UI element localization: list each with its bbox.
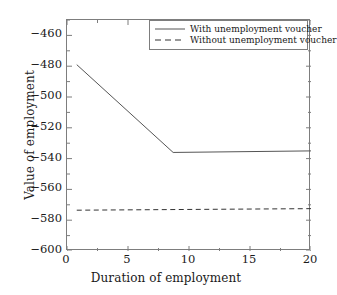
x-tick-label: 0 bbox=[62, 253, 69, 265]
legend-item-with-voucher: With unemployment voucher bbox=[153, 24, 304, 34]
data-series bbox=[77, 65, 311, 211]
x-tick-label: 10 bbox=[181, 253, 196, 265]
chart-legend: With unemployment voucher Without unempl… bbox=[149, 20, 308, 50]
plot-canvas bbox=[67, 20, 311, 251]
legend-dashed-line-icon bbox=[155, 36, 185, 44]
series-line-0 bbox=[77, 65, 311, 153]
axis-ticks bbox=[67, 20, 311, 251]
plot-area: With unemployment voucher Without unempl… bbox=[66, 19, 310, 250]
x-tick-label: 5 bbox=[123, 253, 130, 265]
y-axis-title: Value of employment bbox=[23, 35, 37, 235]
legend-label-without-voucher: Without unemployment voucher bbox=[190, 36, 337, 45]
series-line-1 bbox=[77, 209, 311, 211]
legend-solid-line-icon bbox=[155, 25, 185, 33]
x-tick-label: 20 bbox=[303, 253, 318, 265]
legend-label-with-voucher: With unemployment voucher bbox=[190, 25, 322, 34]
x-axis-title: Duration of employment bbox=[0, 271, 332, 285]
x-tick-label: 15 bbox=[242, 253, 257, 265]
legend-item-without-voucher: Without unemployment voucher bbox=[153, 35, 304, 45]
